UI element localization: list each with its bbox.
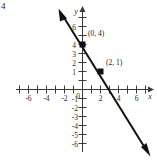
x-tick-label: 2 xyxy=(99,94,103,103)
point-label-2-1: (2, 1) xyxy=(106,58,123,67)
x-tick-label: -2 xyxy=(61,94,67,103)
y-tick-label: -3 xyxy=(72,113,78,122)
x-axis-label: x xyxy=(147,92,152,101)
y-tick-label: 1 xyxy=(72,68,76,77)
y-tick-label: 3 xyxy=(72,50,76,59)
data-point-marker-2-1 xyxy=(98,69,104,75)
x-tick-label: -4 xyxy=(43,94,49,103)
x-tick-label: 6 xyxy=(135,94,139,103)
data-point-marker-0-4 xyxy=(80,42,86,48)
y-tick-label: -1 xyxy=(72,95,78,104)
y-tick-label: 2 xyxy=(72,59,76,68)
y-axis-label: y xyxy=(73,7,78,16)
y-axis xyxy=(80,6,86,152)
y-tick-label: -6 xyxy=(72,140,78,149)
x-tick-label: -6 xyxy=(25,94,31,103)
point-label-0-4: (0, 4) xyxy=(88,29,105,38)
y-tick-label: -4 xyxy=(72,122,78,131)
x-axis xyxy=(16,87,154,93)
y-tick-label: 4 xyxy=(72,41,76,50)
y-tick-label: -2 xyxy=(72,104,78,113)
y-tick-label: -5 xyxy=(72,131,78,140)
y-axis-tick-labels: 6 4 3 2 1 -1 -2 -3 -4 -5 -6 xyxy=(72,23,78,149)
coordinate-plane-graph: -6 -4 -2 0 2 4 6 6 4 3 2 1 -1 -2 -3 -4 -… xyxy=(0,0,157,160)
